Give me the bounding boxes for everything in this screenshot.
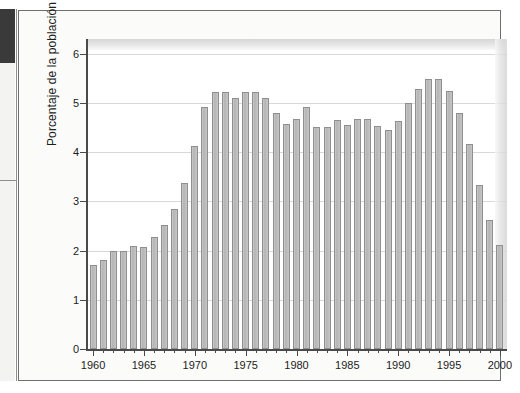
x-tick-mark-1993 [429,349,430,353]
y-tick-mark-6 [80,54,86,55]
x-tick-label-1990: 1990 [386,359,410,371]
y-tick-label-0: 0 [73,344,79,354]
x-tick-mark-1998 [480,349,481,353]
bar-1982 [313,127,320,349]
bar-1974 [232,98,239,349]
x-tick-mark-1990 [398,349,399,356]
x-tick-mark-1989 [388,349,389,353]
y-tick-mark-3 [80,201,86,202]
bar-1961 [100,260,107,349]
x-tick-mark-1985 [347,349,348,356]
plot-area: 196019651970197519801985199019952000 [86,39,507,349]
page-margin-rule-horizontal [0,180,17,181]
x-tick-mark-1979 [286,349,287,353]
bar-1993 [425,79,432,349]
x-tick-label-1970: 1970 [183,359,207,371]
x-tick-mark-1973 [225,349,226,353]
x-tick-mark-1961 [103,349,104,353]
bar-1994 [435,79,442,349]
bar-1972 [212,92,219,349]
x-tick-mark-1992 [419,349,420,353]
y-tick-mark-2 [80,251,86,252]
figure-frame: Porcentaje de la población 0123456 19601… [18,10,501,381]
page-left-margin-tint [0,63,15,381]
x-tick-mark-1991 [408,349,409,353]
x-tick-mark-1974 [235,349,236,353]
x-tick-mark-1966 [154,349,155,353]
y-tick-mark-4 [80,152,86,153]
x-tick-mark-1999 [490,349,491,353]
y-tick-label-4: 4 [73,147,79,157]
x-tick-mark-1981 [307,349,308,353]
bar-1986 [354,119,361,349]
x-tick-mark-1963 [124,349,125,353]
y-tick-mark-0 [80,349,86,350]
x-tick-mark-1969 [185,349,186,353]
y-tick-label-1: 1 [73,295,79,305]
x-tick-mark-1997 [469,349,470,353]
bar-1973 [222,92,229,349]
y-tick-label-3: 3 [73,196,79,206]
x-tick-mark-1960 [93,349,94,356]
bar-1979 [283,124,290,349]
page-margin-rule-vertical [16,9,17,381]
bar-1967 [161,225,168,349]
bar-1963 [120,251,127,349]
bar-1969 [181,183,188,349]
bar-1985 [344,125,351,349]
bar-1976 [252,92,259,349]
x-tick-label-2000: 2000 [488,359,512,371]
x-tick-mark-1980 [297,349,298,356]
x-tick-label-1995: 1995 [437,359,461,371]
bar-1987 [364,119,371,349]
bar-1990 [395,121,402,349]
bar-1981 [303,107,310,349]
bar-1999 [486,220,493,349]
bar-1991 [405,103,412,349]
bar-1975 [242,92,249,349]
x-tick-mark-1978 [276,349,277,353]
bar-1992 [415,89,422,349]
bars-layer [86,39,507,349]
page-gutter-block [0,9,15,63]
bar-1962 [110,251,117,349]
x-tick-mark-1976 [256,349,257,353]
y-axis-tick-labels: 0123456 [59,39,79,351]
y-tick-mark-1 [80,300,86,301]
bar-1966 [151,237,158,349]
x-tick-label-1965: 1965 [132,359,156,371]
bar-1983 [324,127,331,349]
x-tick-mark-1968 [174,349,175,353]
bar-1995 [446,91,453,349]
y-axis-line [86,39,88,350]
bar-1960 [90,265,97,349]
x-tick-label-1980: 1980 [284,359,308,371]
y-tick-label-6: 6 [73,49,79,59]
bar-1970 [191,146,198,349]
x-tick-mark-1964 [134,349,135,353]
x-tick-mark-1972 [215,349,216,353]
x-tick-mark-1971 [205,349,206,353]
bar-1998 [476,185,483,349]
x-tick-label-1975: 1975 [233,359,257,371]
x-tick-mark-1967 [164,349,165,353]
bar-1988 [374,126,381,349]
bar-1997 [466,144,473,349]
y-tick-label-2: 2 [73,246,79,256]
y-tick-label-5: 5 [73,98,79,108]
x-tick-mark-1970 [195,349,196,356]
bar-1964 [130,246,137,349]
x-tick-label-1985: 1985 [335,359,359,371]
x-tick-mark-1995 [449,349,450,356]
bar-1977 [262,98,269,349]
x-tick-mark-1982 [317,349,318,353]
y-tick-mark-5 [80,103,86,104]
x-tick-mark-1977 [266,349,267,353]
bar-1996 [456,113,463,349]
bar-1971 [201,107,208,349]
x-tick-mark-1965 [144,349,145,356]
bar-2000 [496,245,503,349]
bar-1989 [385,130,392,349]
x-tick-mark-1988 [378,349,379,353]
x-tick-mark-1962 [113,349,114,353]
